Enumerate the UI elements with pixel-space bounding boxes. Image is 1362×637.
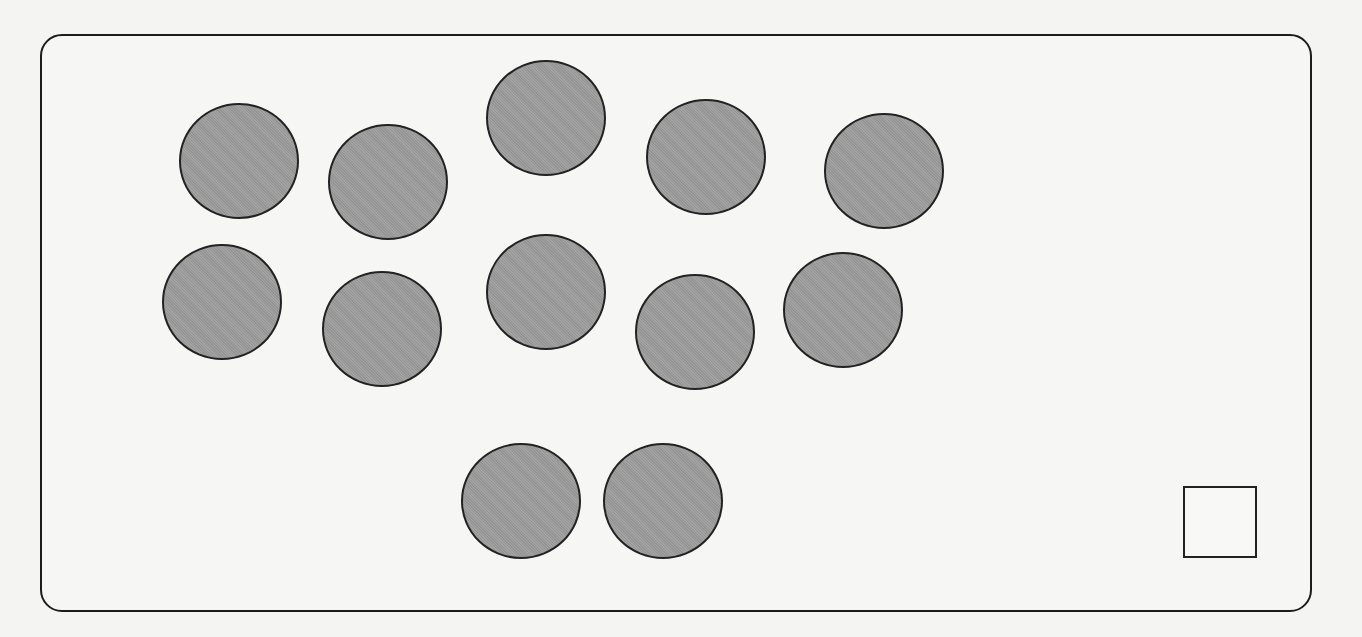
circle-icon xyxy=(783,252,903,368)
circle-icon xyxy=(486,234,606,350)
circle-icon xyxy=(461,443,581,559)
circle-icon xyxy=(603,443,723,559)
circle-icon xyxy=(646,99,766,215)
circle-icon xyxy=(486,60,606,176)
circle-icon xyxy=(635,274,755,390)
circle-icon xyxy=(322,271,442,387)
circle-icon xyxy=(328,124,448,240)
circle-icon xyxy=(179,103,299,219)
circle-icon xyxy=(824,113,944,229)
circle-icon xyxy=(162,244,282,360)
answer-box[interactable] xyxy=(1183,486,1257,558)
